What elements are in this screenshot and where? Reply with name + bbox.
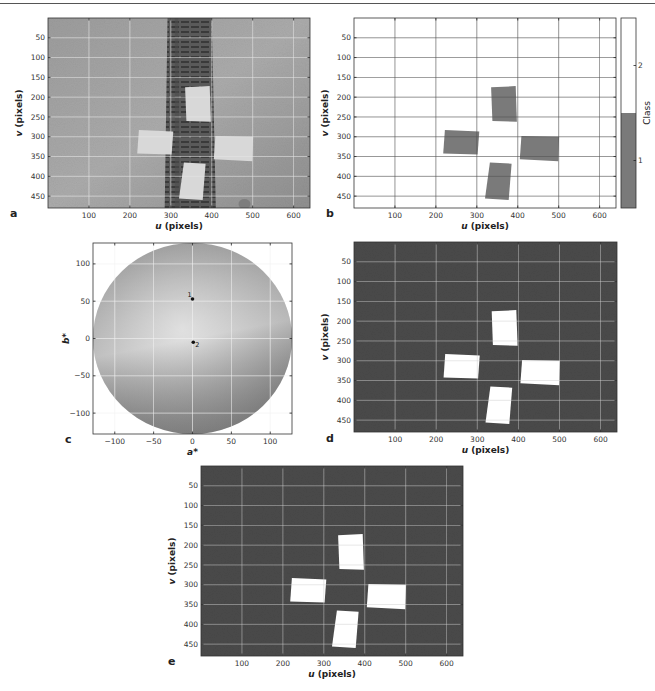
x-axis-label: u (pixels) xyxy=(462,445,510,455)
x-tick-label: 50 xyxy=(227,437,237,446)
panel-c: 12−100−50050100100500−50−100a*b* xyxy=(61,243,292,457)
panel-letter-d: d xyxy=(326,432,334,445)
panel-letter-a: a xyxy=(10,207,17,220)
y-tick-label: 200 xyxy=(337,317,352,326)
y-tick-label: 100 xyxy=(337,277,352,286)
x-tick-label: 100 xyxy=(263,437,278,446)
panel-letter-c: c xyxy=(65,433,72,446)
y-tick-label: 100 xyxy=(337,53,352,62)
panel-letter-e: e xyxy=(168,655,175,668)
x-tick-label: 300 xyxy=(164,211,179,220)
panel-b: 1002003004005006005010015020025030035040… xyxy=(320,18,652,231)
mask-patch-top xyxy=(338,534,364,570)
colorbar-label: Class xyxy=(642,101,652,125)
plot-area-b xyxy=(354,18,616,208)
y-tick-label: 150 xyxy=(31,73,46,82)
panel-d: 1002003004005006005010015020025030035040… xyxy=(320,242,617,455)
plot-area-e xyxy=(201,466,463,656)
x-axis-label: a* xyxy=(187,447,198,457)
x-tick-label: 300 xyxy=(470,211,485,220)
y-tick-label: 150 xyxy=(337,297,352,306)
x-tick-label: 400 xyxy=(205,211,220,220)
x-tick-label: 500 xyxy=(246,211,261,220)
y-tick-label: 250 xyxy=(337,337,352,346)
x-tick-label: 200 xyxy=(429,211,444,220)
x-tick-label: 600 xyxy=(286,211,301,220)
x-tick-label: 500 xyxy=(399,659,414,668)
x-tick-label: −50 xyxy=(146,437,162,446)
x-tick-label: 400 xyxy=(511,435,526,444)
y-tick-label: 50 xyxy=(341,33,351,42)
y-tick-label: 0 xyxy=(85,334,90,343)
y-tick-label: 450 xyxy=(31,192,46,201)
cluster-label-2: 2 xyxy=(195,341,199,349)
mask-patch-right xyxy=(367,584,406,609)
y-tick-label: 100 xyxy=(31,53,46,62)
x-tick-label: 100 xyxy=(388,211,403,220)
y-tick-label: 100 xyxy=(184,501,199,510)
y-tick-label: 200 xyxy=(31,93,46,102)
y-tick-label: 400 xyxy=(337,396,352,405)
panel-a: 1002003004005006005010015020025030035040… xyxy=(14,18,310,231)
x-tick-label: 400 xyxy=(511,211,526,220)
class1-patch-top xyxy=(491,86,517,122)
colorbar: 21Class xyxy=(621,18,652,208)
patch-right xyxy=(214,136,253,161)
mask-patch-left xyxy=(444,354,480,379)
y-tick-label: 100 xyxy=(76,259,91,268)
y-axis-label: v (pixels) xyxy=(320,313,330,360)
x-tick-label: 300 xyxy=(317,659,332,668)
y-axis-label: b* xyxy=(61,333,71,344)
x-tick-label: 500 xyxy=(552,211,567,220)
y-axis-label: v (pixels) xyxy=(167,537,177,584)
figure-canvas: 1002003004005006005010015020025030035040… xyxy=(0,0,655,691)
plot-area-a xyxy=(48,18,310,209)
cluster-label-1: 1 xyxy=(188,291,192,299)
y-tick-label: 450 xyxy=(184,640,199,649)
x-tick-label: 100 xyxy=(235,659,250,668)
binary-background xyxy=(354,242,617,432)
x-tick-label: −100 xyxy=(104,437,125,446)
y-tick-label: 250 xyxy=(184,561,199,570)
y-tick-label: −100 xyxy=(69,409,90,418)
panel-letter-b: b xyxy=(326,207,334,220)
x-tick-label: 200 xyxy=(123,211,138,220)
binary-background xyxy=(201,466,463,656)
y-tick-label: 350 xyxy=(337,152,352,161)
y-tick-label: −50 xyxy=(74,371,90,380)
y-tick-label: 350 xyxy=(31,152,46,161)
x-tick-label: 600 xyxy=(593,435,608,444)
y-tick-label: 350 xyxy=(184,600,199,609)
x-axis-label: u (pixels) xyxy=(155,221,203,231)
x-tick-label: 500 xyxy=(552,435,567,444)
x-tick-label: 400 xyxy=(358,659,373,668)
y-tick-label: 300 xyxy=(337,132,352,141)
colorbar-tick-label: 2 xyxy=(638,61,643,70)
y-axis-label: v (pixels) xyxy=(14,89,24,136)
x-tick-label: 200 xyxy=(429,435,444,444)
x-tick-label: 100 xyxy=(82,211,97,220)
x-tick-label: 600 xyxy=(592,211,607,220)
mask-patch-top xyxy=(492,310,518,346)
y-tick-label: 50 xyxy=(35,33,45,42)
x-axis-label: u (pixels) xyxy=(461,221,509,231)
plot-area-d xyxy=(354,242,617,432)
x-axis-label: u (pixels) xyxy=(308,669,356,679)
y-tick-label: 150 xyxy=(337,73,352,82)
y-tick-label: 400 xyxy=(184,620,199,629)
y-tick-label: 200 xyxy=(337,93,352,102)
y-tick-label: 450 xyxy=(337,192,352,201)
class1-patch-left xyxy=(443,130,479,155)
y-tick-label: 50 xyxy=(80,297,90,306)
colorbar-tick-label: 1 xyxy=(638,156,643,165)
x-tick-label: 100 xyxy=(388,435,403,444)
y-tick-label: 200 xyxy=(184,541,199,550)
x-tick-label: 0 xyxy=(190,437,195,446)
x-tick-label: 300 xyxy=(470,435,485,444)
y-tick-label: 400 xyxy=(337,172,352,181)
patch-left xyxy=(137,130,173,155)
mask-patch-right xyxy=(520,360,560,385)
y-tick-label: 150 xyxy=(184,521,199,530)
y-tick-label: 400 xyxy=(31,172,46,181)
y-tick-label: 450 xyxy=(337,416,352,425)
